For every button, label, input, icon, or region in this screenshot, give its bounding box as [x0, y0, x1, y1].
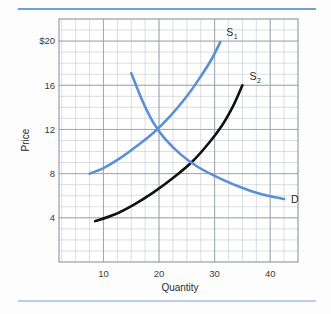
curve-label-d: D — [291, 193, 299, 205]
x-axis-title: Quantity — [161, 282, 198, 293]
y-tick-label: 8 — [50, 168, 55, 179]
y-axis-title: Price — [20, 128, 31, 151]
supply-demand-chart: 481216$20 10203040 Price Quantity S1S2D — [0, 0, 331, 314]
y-axis-tick-labels: 481216$20 — [39, 35, 55, 223]
figure-root: 481216$20 10203040 Price Quantity S1S2D — [0, 0, 331, 314]
x-tick-label: 10 — [98, 268, 109, 279]
y-tick-label: $20 — [39, 35, 55, 46]
curve-label-subscript: 2 — [257, 77, 261, 84]
x-tick-label: 30 — [209, 268, 220, 279]
y-tick-label: 16 — [44, 80, 55, 91]
y-tick-label: 12 — [44, 124, 55, 135]
x-tick-label: 40 — [265, 268, 276, 279]
x-axis-tick-labels: 10203040 — [98, 268, 275, 279]
curve-label-subscript: 1 — [234, 33, 238, 40]
y-tick-label: 4 — [50, 212, 55, 223]
x-tick-label: 20 — [154, 268, 165, 279]
